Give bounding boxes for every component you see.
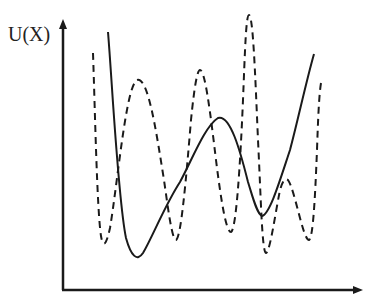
potential-energy-diagram: U(X) <box>0 0 365 303</box>
dashed-curve <box>93 15 321 253</box>
plot-area <box>0 0 365 303</box>
y-axis-label: U(X) <box>8 23 50 46</box>
solid-curve <box>108 32 314 257</box>
